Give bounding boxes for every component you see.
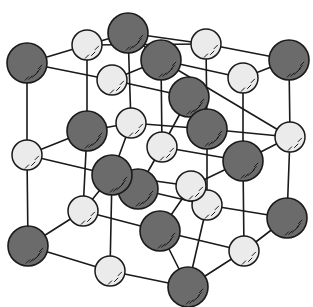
small-ion-sphere bbox=[275, 122, 305, 152]
bond-line bbox=[87, 44, 206, 45]
large-ion-sphere bbox=[187, 109, 227, 149]
small-ion-sphere bbox=[229, 236, 259, 266]
large-ion-sphere bbox=[67, 111, 107, 151]
small-ion-sphere bbox=[191, 29, 221, 59]
crystal-lattice-diagram bbox=[0, 0, 313, 307]
small-ion-sphere bbox=[228, 63, 258, 93]
small-ion-sphere bbox=[95, 256, 125, 286]
small-ion-sphere bbox=[12, 140, 42, 170]
large-ion-sphere bbox=[108, 13, 148, 53]
large-ion-sphere bbox=[140, 211, 180, 251]
large-ion-sphere bbox=[8, 226, 48, 266]
large-ion-sphere bbox=[269, 40, 309, 80]
lattice-canvas bbox=[0, 0, 313, 307]
small-ion-sphere bbox=[116, 108, 146, 138]
large-ion-sphere bbox=[141, 40, 181, 80]
ion-spheres bbox=[7, 13, 309, 307]
large-ion-sphere bbox=[223, 141, 263, 181]
small-ion-sphere bbox=[97, 65, 127, 95]
small-ion-sphere bbox=[176, 171, 206, 201]
small-ion-sphere bbox=[68, 196, 98, 226]
large-ion-sphere bbox=[168, 267, 208, 307]
small-ion-sphere bbox=[72, 30, 102, 60]
large-ion-sphere bbox=[267, 198, 307, 238]
small-ion-sphere bbox=[147, 132, 177, 162]
large-ion-sphere bbox=[92, 155, 132, 195]
large-ion-sphere bbox=[7, 43, 47, 83]
